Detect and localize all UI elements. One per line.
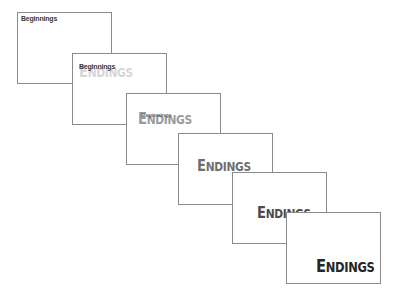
beginnings-text: Beginnings: [21, 15, 57, 22]
beginnings-text: Beginnings: [79, 63, 115, 70]
frame-6: ENDINGS: [286, 212, 381, 284]
endings-text: ENDINGS: [316, 257, 375, 275]
beginnings-text: Beginnings: [141, 112, 172, 118]
